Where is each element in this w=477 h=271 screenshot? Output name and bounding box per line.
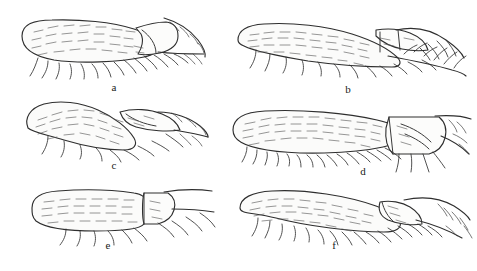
panel-f: f — [232, 182, 477, 254]
panel-e-apical-arc-upper — [164, 190, 212, 192]
panel-e-label: e — [98, 240, 118, 251]
figure-plate: a — [0, 0, 477, 271]
panel-f-apical-arc-lower — [416, 220, 462, 238]
panel-c: c — [14, 96, 224, 164]
panel-a-body-outline — [22, 20, 157, 62]
panel-e: e — [22, 183, 222, 249]
panel-d-label: d — [353, 166, 373, 177]
panel-e-apical-arc-lower — [172, 209, 214, 212]
panel-d: d — [225, 100, 475, 174]
panel-b: b — [228, 8, 476, 84]
panel-a-distal-segment — [136, 22, 178, 55]
panel-a: a — [8, 10, 228, 82]
panel-d-apical-setae — [449, 120, 469, 154]
panel-e-body-outline — [32, 190, 146, 231]
panel-c-body-outline — [27, 102, 136, 150]
panel-f-apical-setae — [438, 204, 472, 238]
panel-d-distal-segment — [386, 117, 446, 154]
panel-c-label: c — [104, 160, 124, 171]
panel-b-lower-arc — [388, 56, 466, 76]
panel-b-label: b — [338, 84, 358, 95]
panel-d-segment-setae — [396, 152, 445, 172]
panel-e-distal-segment — [143, 193, 175, 224]
panel-f-body-outline — [240, 191, 400, 232]
panel-c-apical-arc-lower — [174, 130, 208, 137]
panel-a-apical-arc-lower — [158, 52, 204, 54]
panel-a-label: a — [104, 82, 124, 93]
panel-f-label: f — [324, 240, 344, 251]
